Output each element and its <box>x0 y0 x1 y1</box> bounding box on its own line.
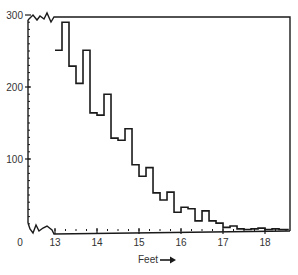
y-tick-label: 100 <box>6 154 23 165</box>
y-axis: 100200300 <box>6 10 31 224</box>
histogram-steps <box>55 22 288 230</box>
x-axis-title: Feet <box>138 254 158 265</box>
histogram-chart: 100200300 1314151617180 Feet <box>0 0 298 275</box>
x-tick-label: 13 <box>49 237 61 248</box>
x-tick-label: 15 <box>133 237 145 248</box>
x-axis: 1314151617180 <box>17 223 290 248</box>
arrow-head <box>170 257 176 264</box>
y-tick-label: 200 <box>6 82 23 93</box>
top-right-frame <box>28 13 290 231</box>
plot-frame <box>28 13 290 231</box>
x-tick-label: 18 <box>259 237 271 248</box>
x-origin-label: 0 <box>17 237 23 248</box>
y-tick-label: 300 <box>6 10 23 21</box>
x-tick-label: 16 <box>175 237 187 248</box>
x-tick-label: 14 <box>91 237 103 248</box>
right-arrow-icon <box>160 257 176 264</box>
x-tick-label: 17 <box>217 237 229 248</box>
